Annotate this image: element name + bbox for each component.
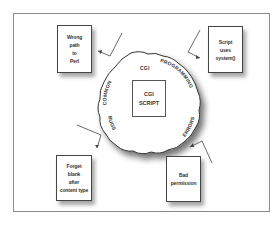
box-bad-permission: Bad permission — [166, 156, 201, 202]
cgi-script-box: CGI SCRIPT — [132, 80, 166, 117]
box-wrong-path: Wrong path to Perl — [57, 25, 92, 73]
box-wrong-path-label: Wrong path to Perl — [67, 33, 82, 65]
box-script-system-label: Script uses system() — [216, 38, 236, 62]
box-script-system: Script uses system() — [208, 26, 243, 73]
box-forget-blank: Forget blank after content type — [56, 155, 92, 201]
cgi-script-label: CGI SCRIPT — [139, 90, 159, 108]
arrow-script-system — [188, 30, 200, 58]
box-forget-blank-label: Forget blank after content type — [60, 162, 89, 194]
arrow-forget-blank — [77, 125, 101, 148]
arrow-wrong-path — [98, 33, 122, 56]
box-bad-permission-label: Bad permission — [171, 171, 197, 187]
ring-word-cgi: CGI — [140, 65, 150, 71]
